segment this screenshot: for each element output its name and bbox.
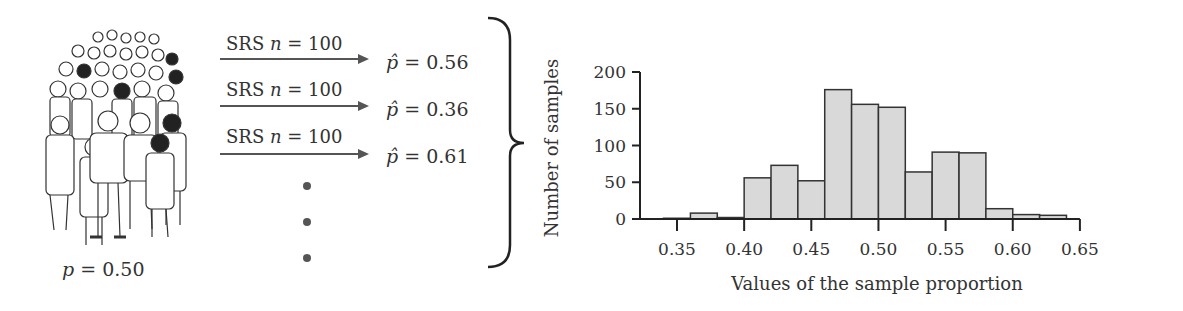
y-tick-label: 150 — [594, 99, 626, 119]
p-symbol: p — [62, 258, 74, 280]
x-tick-label: 0.50 — [860, 239, 898, 259]
y-axis: 050100150200 — [594, 62, 640, 229]
sample-label-1: SRS n = 100 — [226, 33, 342, 54]
histogram-bar — [878, 107, 905, 219]
histogram-bar — [771, 165, 798, 219]
x-tick-label: 0.60 — [994, 239, 1032, 259]
histogram-bars — [664, 90, 1067, 219]
phat-label-3: p̂ = 0.61 — [386, 145, 468, 167]
x-tick-label: 0.55 — [927, 239, 965, 259]
y-tick-label: 100 — [594, 136, 626, 156]
population-proportion-label: p = 0.50 — [62, 258, 144, 280]
sample-label-3: SRS n = 100 — [226, 126, 342, 147]
crowd-illustration — [20, 25, 200, 250]
histogram-bar — [825, 90, 852, 219]
sample-label-2: SRS n = 100 — [226, 79, 342, 100]
histogram-bar — [744, 178, 771, 219]
x-tick-label: 0.65 — [1061, 239, 1099, 259]
x-tick-label: 0.35 — [658, 239, 696, 259]
crowd-back-rows — [50, 30, 183, 101]
histogram-chart: Number of samples 050100150200 0.350.400… — [530, 40, 1183, 311]
y-axis-label: Number of samples — [541, 59, 562, 237]
histogram-bar — [986, 209, 1013, 219]
x-axis-label: Values of the sample proportion — [730, 273, 1023, 294]
y-tick-label: 50 — [604, 172, 626, 192]
x-tick-label: 0.40 — [725, 239, 763, 259]
ellipsis-dot-icon — [303, 218, 311, 226]
p-value: = 0.50 — [80, 258, 144, 280]
x-axis: 0.350.400.450.500.550.600.65 — [640, 219, 1099, 259]
phat-label-2: p̂ = 0.36 — [386, 98, 468, 120]
arrow-icon — [220, 147, 370, 161]
x-tick-label: 0.45 — [792, 239, 830, 259]
ellipsis-dot-icon — [303, 254, 311, 262]
histogram-bar — [932, 152, 959, 219]
arrow-icon — [220, 52, 370, 66]
histogram-bar — [798, 181, 825, 219]
y-tick-label: 200 — [594, 62, 626, 82]
curly-brace-icon — [480, 15, 530, 270]
arrow-icon — [220, 99, 370, 113]
y-tick-label: 0 — [615, 209, 626, 229]
phat-label-1: p̂ = 0.56 — [386, 51, 468, 73]
ellipsis-dot-icon — [303, 182, 311, 190]
histogram-bar — [852, 104, 879, 219]
histogram-bar — [959, 153, 986, 219]
histogram-bar — [905, 172, 932, 219]
